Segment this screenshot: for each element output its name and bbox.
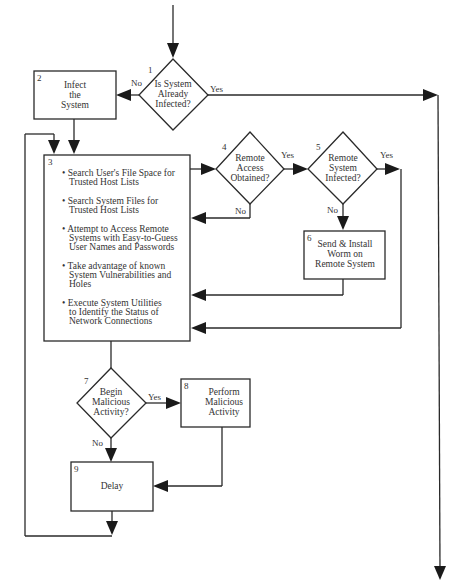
process-9: 9 Delay [71, 462, 153, 511]
delay-down-arrowhead [106, 521, 118, 535]
d1-no-label: No [131, 78, 142, 88]
d7-no-arrowhead [105, 448, 117, 462]
entry-arrowhead [167, 43, 179, 58]
d7-yes-label: Yes [148, 392, 162, 402]
d1-no-arrowhead [116, 89, 131, 101]
node-text: Infect [64, 80, 87, 90]
node-number: 6 [307, 233, 312, 243]
bullet-text: User Names and Passwords [69, 242, 175, 252]
process-6: 6 Send & Install Worm on Remote System [304, 231, 385, 279]
node-number: 4 [222, 142, 227, 152]
d5-no-label: No [327, 205, 338, 215]
node-text: System [329, 163, 358, 173]
d5-no-arrowhead [337, 216, 349, 230]
node-text: Delay [101, 481, 124, 491]
decision-7: 7 Begin Malicious Activity? [77, 368, 146, 438]
d5-yes-arrowhead [385, 163, 400, 175]
node-number: 7 [84, 376, 89, 386]
bullet-text: Trusted Host Lists [69, 205, 139, 215]
process-8: 8 Perform Malicious Activity [181, 379, 250, 427]
node-text: Malicious [92, 397, 130, 407]
d5-yes-return-arrowhead [191, 322, 206, 334]
node-text: Perform [208, 387, 240, 397]
node-text: Send & Install [318, 239, 373, 249]
node-number: 1 [148, 65, 153, 75]
node-text: Is System [154, 79, 192, 89]
d7-yes-arrowhead [166, 397, 181, 409]
d4-yes-label: Yes [281, 150, 295, 160]
loop-arrowhead [48, 140, 60, 154]
d4-no-label: No [235, 206, 246, 216]
b2-to-b3-arrowhead [68, 140, 80, 154]
bullet-text: Trusted Host Lists [69, 177, 139, 187]
exit-arrowhead [434, 566, 446, 580]
process-3: 3 • Search User's File Space for Trusted… [44, 155, 190, 341]
node-text: Infected? [155, 99, 190, 109]
node-number: 5 [316, 142, 321, 152]
decision-1: 1 Is System Already Infected? [139, 59, 208, 130]
node-text: Activity [208, 407, 239, 417]
bullet-text: Holes [69, 279, 91, 289]
d5-yes-label: Yes [380, 150, 394, 160]
decision-4: 4 Remote Access Obtained? [216, 132, 284, 204]
bullet-text: Network Connections [69, 316, 152, 326]
node-text: Worm on [327, 249, 363, 259]
node-text: Malicious [205, 397, 243, 407]
node-text: Obtained? [230, 173, 269, 183]
decision-5: 5 Remote System Infected? [308, 132, 377, 204]
d4-yes-arrowhead [293, 163, 308, 175]
b8-to-delay-arrowhead [153, 480, 168, 492]
node-text: Remote [235, 153, 265, 163]
node-text: Infected? [325, 173, 360, 183]
right-trunk-line [438, 95, 440, 570]
node-text: Remote System [315, 259, 376, 269]
node-number: 3 [48, 157, 53, 167]
node-number: 9 [74, 464, 79, 474]
node-number: 2 [37, 73, 42, 83]
node-text: System [61, 100, 90, 110]
worm-flowchart: 1 Is System Already Infected? 2 Infect t… [0, 0, 467, 585]
node-text: Access [237, 163, 264, 173]
node-text: Begin [100, 387, 123, 397]
node-text: Already [158, 89, 189, 99]
d1-yes-arrowhead [423, 89, 438, 101]
d4-no-arrowhead [191, 212, 206, 224]
b3-to-d4-arrowhead [201, 163, 216, 175]
process-2: 2 Infect the System [34, 71, 116, 119]
node-number: 8 [184, 381, 189, 391]
node-text: the [69, 90, 81, 100]
node-text: Activity? [93, 407, 128, 417]
node-text: Remote [328, 153, 358, 163]
b6-return-arrowhead [191, 289, 206, 301]
d7-no-label: No [92, 438, 103, 448]
d1-yes-label: Yes [210, 84, 224, 94]
